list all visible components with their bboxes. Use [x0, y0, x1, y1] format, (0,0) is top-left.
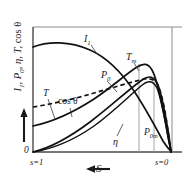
- curve-label-p0m: P0m: [144, 128, 158, 139]
- curve-label-p0: P0: [101, 70, 111, 83]
- y-axis-sym-eta: η: [12, 59, 23, 64]
- curve-label-tm: Tm: [126, 52, 136, 65]
- y-axis-sym-cos: cos θ: [12, 22, 23, 44]
- curve-label-i1: I1: [84, 34, 91, 47]
- curve-label-eta: η: [113, 137, 118, 147]
- x-axis-tick-s0: s=0: [155, 158, 168, 167]
- y-axis-sym-p0: P0: [12, 69, 23, 79]
- x-axis-tick-s1: s=1: [30, 158, 43, 167]
- y-axis-sep-1: ,: [12, 79, 23, 84]
- y-axis-sep-2: ,: [12, 64, 23, 69]
- y-axis-sep-3: ,: [12, 54, 23, 59]
- y-axis-sym-i1: I1: [12, 85, 23, 92]
- curve-label-t: T: [43, 88, 49, 98]
- chart-figure: I1, P0, η, T, cos θ 0 s=1 s=0 S I1 Tm P0…: [0, 0, 185, 180]
- curve-label-cos-theta: cos θ: [58, 97, 78, 107]
- y-axis-sym-t: T: [12, 49, 23, 54]
- y-axis-title: I1, P0, η, T, cos θ: [13, 0, 26, 117]
- y-axis-sep-4: ,: [12, 43, 23, 48]
- x-axis-title: S: [96, 163, 102, 174]
- y-axis-origin-label: 0: [24, 146, 29, 156]
